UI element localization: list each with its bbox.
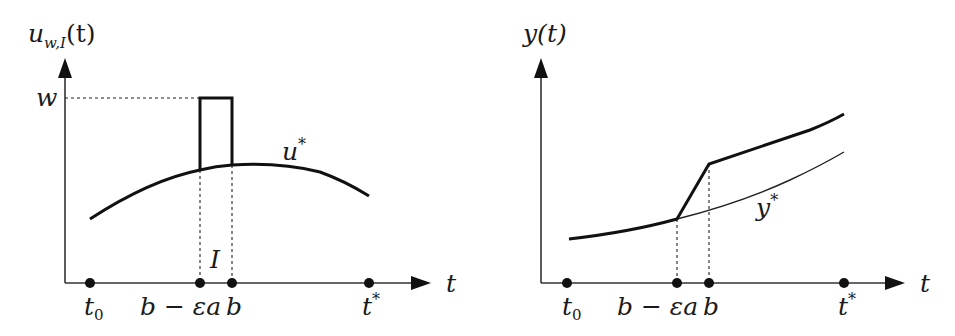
w-level-label: w	[36, 83, 57, 112]
right-tick-label-t0: t0	[562, 292, 582, 324]
right-tick-label-b-minus-eps-a: b − εa	[617, 292, 698, 321]
left-x-axis-label: t	[446, 269, 457, 298]
right-x-axis-label: t	[920, 269, 931, 298]
right-tick-b	[704, 278, 714, 288]
left-tick-b-minus-eps-a	[195, 278, 205, 288]
left-panel: uw,I(t) w u* I t t0 b − εa b t*	[28, 19, 457, 324]
left-tick-b	[227, 278, 237, 288]
interval-label: I	[209, 245, 221, 274]
left-y-axis-arrow-icon	[58, 58, 72, 78]
right-panel: y(t) y* t t0 b − εa b t*	[522, 19, 931, 324]
right-y-axis-arrow-icon	[534, 58, 548, 78]
left-tick-label-b-minus-eps-a: b − εa	[140, 292, 221, 321]
figure: uw,I(t) w u* I t t0 b − εa b t* y	[0, 0, 955, 336]
right-tick-b-minus-eps-a	[672, 278, 682, 288]
right-tick-t-star	[839, 278, 849, 288]
right-x-axis-arrow-icon	[885, 276, 905, 290]
u-star-label: u*	[282, 135, 306, 166]
right-y-axis-label: y(t)	[522, 19, 567, 48]
right-tick-t0	[562, 278, 572, 288]
perturbed-trajectory	[569, 114, 844, 239]
y-star-label: y*	[755, 191, 778, 222]
left-tick-label-t-star: t*	[362, 290, 380, 321]
u-star-curve	[90, 164, 369, 219]
left-tick-t-star	[364, 278, 374, 288]
left-y-axis-label: uw,I(t)	[28, 19, 95, 52]
right-tick-label-b: b	[703, 292, 719, 321]
left-tick-label-b: b	[226, 292, 242, 321]
needle-pulse	[200, 98, 232, 170]
left-tick-t0	[85, 278, 95, 288]
right-tick-label-t-star: t*	[838, 290, 856, 321]
left-tick-label-t0: t0	[84, 292, 104, 324]
left-x-axis-arrow-icon	[411, 276, 431, 290]
